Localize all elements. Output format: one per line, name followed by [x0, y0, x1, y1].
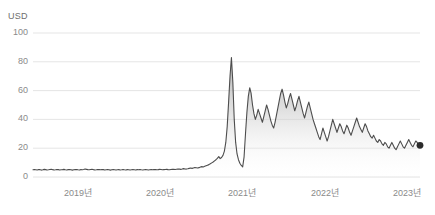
- x-tick-label: 2020년: [130, 186, 190, 199]
- chart-plot-area: [0, 0, 435, 215]
- y-tick-label: 80: [4, 56, 28, 66]
- price-line-chart: USD 020406080100 2019년2020년2021년2022년202…: [0, 0, 435, 215]
- area-fill: [33, 57, 420, 177]
- x-tick-label: 2021년: [212, 186, 272, 199]
- y-tick-label: 40: [4, 113, 28, 123]
- x-tick-label: 2023년: [377, 186, 435, 199]
- y-tick-label: 20: [4, 142, 28, 152]
- x-tick-label: 2019년: [48, 186, 108, 199]
- y-tick-label: 60: [4, 85, 28, 95]
- x-tick-label: 2022년: [295, 186, 355, 199]
- series-end-marker: [417, 142, 424, 149]
- y-tick-label: 100: [4, 27, 28, 37]
- y-tick-label: 0: [4, 171, 28, 181]
